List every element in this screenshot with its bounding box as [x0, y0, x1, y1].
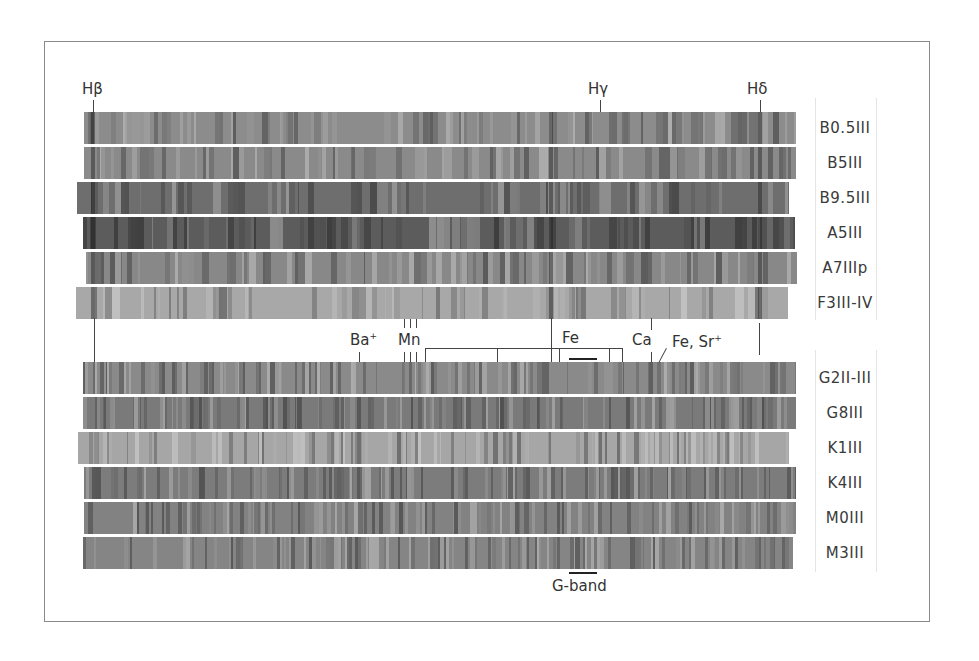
mn-tick-bot-2	[410, 352, 411, 362]
spectral-type-label: A5III	[815, 217, 875, 249]
mn-tick-top-3	[416, 319, 417, 328]
absorption-line	[549, 182, 553, 214]
hbeta-label: Hβ	[82, 80, 103, 98]
fe-sr-label: Fe, Sr+	[672, 333, 722, 351]
absorption-line	[91, 252, 95, 284]
spectrum-strip-m3iii	[83, 537, 793, 569]
fe-bracket-1	[425, 348, 426, 362]
absorption-line	[549, 112, 553, 144]
ba-tick	[359, 352, 360, 362]
fe-bracket-2	[497, 348, 498, 362]
absorption-line	[758, 287, 762, 319]
mn-label: Mn	[398, 331, 420, 349]
hbeta-mid-tick	[94, 318, 95, 362]
spectral-type-label: F3III-IV	[815, 287, 875, 319]
spectrum-strip-g8iii	[83, 397, 796, 429]
absorption-line	[758, 182, 762, 214]
ca-label: Ca	[632, 331, 652, 349]
absorption-line	[758, 147, 762, 179]
absorption-line	[91, 217, 95, 249]
spectrum-strip-a5iii	[83, 217, 795, 249]
spectrum-strip-b0-5iii	[84, 112, 796, 144]
spectral-type-label: K1III	[815, 432, 875, 464]
fe-bracket-line	[425, 348, 623, 349]
spectrum-strip-k1iii	[78, 432, 789, 464]
fe-label: Fe	[562, 329, 579, 347]
absorption-line	[549, 252, 553, 284]
hdelta-label: Hδ	[747, 80, 767, 98]
hgamma-mid-tick	[551, 318, 552, 362]
absorption-line	[758, 252, 762, 284]
spectral-type-label: K4III	[815, 467, 875, 499]
g-band-label: G-band	[552, 577, 607, 595]
spectrum-strip-b5iii	[84, 147, 796, 179]
absorption-line	[758, 217, 762, 249]
ca-tick-bot	[651, 352, 652, 362]
mn-tick-top-2	[410, 319, 411, 328]
absorption-line	[91, 287, 95, 319]
hgamma-label: Hγ	[588, 80, 608, 98]
spectral-type-label: A7IIIp	[815, 252, 875, 284]
absorption-line	[549, 287, 553, 319]
spectral-type-label: B9.5III	[815, 182, 875, 214]
spectral-type-label: M0III	[815, 502, 875, 534]
spectrum-strip-m0iii	[84, 502, 796, 534]
absorption-line	[549, 147, 553, 179]
spectrum-strip-f3iii-iv	[76, 287, 788, 319]
hdelta-mid-tick	[759, 323, 760, 355]
fe-bracket-4	[609, 348, 610, 362]
spectrum-strip-k4iii	[84, 467, 796, 499]
ba-label: Ba+	[350, 331, 377, 349]
absorption-line	[758, 112, 762, 144]
spectrum-strip-a7iiip	[86, 252, 797, 284]
spectral-type-label: M3III	[815, 537, 875, 569]
spectral-type-label: B5III	[815, 147, 875, 179]
fe-underline	[569, 358, 597, 360]
fe-bracket-3	[559, 348, 560, 362]
absorption-line	[549, 217, 553, 249]
spectral-type-label: G2II-III	[815, 362, 875, 394]
absorption-line	[91, 182, 95, 214]
spectrum-strip-b9-5iii	[77, 182, 789, 214]
spectral-type-label: B0.5III	[815, 112, 875, 144]
absorption-line	[91, 112, 95, 144]
mn-tick-bot-1	[404, 352, 405, 362]
mn-tick-bot-3	[416, 352, 417, 362]
spectral-type-label: G8III	[815, 397, 875, 429]
absorption-line	[91, 147, 95, 179]
ca-tick-top	[651, 318, 652, 330]
fe-bracket-5	[622, 348, 623, 362]
g-band-bar	[569, 572, 597, 574]
mn-tick-top-1	[404, 319, 405, 328]
spectrum-strip-g2ii-iii	[83, 362, 796, 394]
